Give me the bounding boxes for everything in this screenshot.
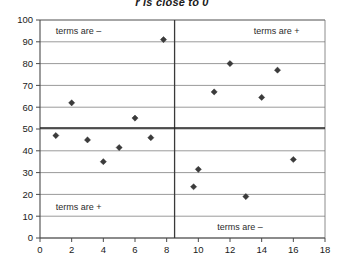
data-point [84,137,90,143]
x-tick-label: 8 [164,244,169,255]
y-tick-label: 80 [22,58,33,69]
data-point [100,159,106,165]
quadrant-label-bottom-left: terms are + [56,202,102,212]
y-tick-label: 100 [17,14,33,25]
data-point [148,135,154,141]
x-tick-label: 18 [320,244,331,255]
quadrant-label-top-left: terms are – [56,26,102,36]
y-tick-label: 10 [22,211,33,222]
scatter-chart: r is close to 0 0102030405060708090100 0… [0,0,344,266]
x-tick-label: 10 [193,244,204,255]
x-axis-tick-labels: 024681012141618 [37,244,330,255]
y-tick-label: 90 [22,36,33,47]
y-axis-tick-labels: 0102030405060708090100 [17,14,33,243]
y-tick-label: 20 [22,189,33,200]
x-tick-label: 4 [101,244,106,255]
quadrant-label-top-right: terms are + [254,26,300,36]
y-tick-label: 60 [22,102,33,113]
data-point [274,67,280,73]
y-tick-label: 0 [28,232,33,243]
data-point [116,144,122,150]
x-tick-label: 0 [37,244,42,255]
y-tick-label: 50 [22,123,33,134]
data-point [132,115,138,121]
y-tick-label: 30 [22,167,33,178]
data-point [227,61,233,67]
x-tick-label: 14 [256,244,267,255]
quadrant-label-bottom-right: terms are – [217,222,263,232]
x-tick-label: 2 [69,244,74,255]
data-point [211,89,217,95]
data-point [195,166,201,172]
data-point [290,156,296,162]
plot-area: 0102030405060708090100 024681012141618 t… [0,0,344,266]
x-tick-label: 16 [288,244,299,255]
y-tick-label: 70 [22,80,33,91]
data-point [69,100,75,106]
data-point [190,184,196,190]
x-tick-label: 12 [225,244,236,255]
data-point [53,132,59,138]
data-point [259,94,265,100]
y-tick-label: 40 [22,145,33,156]
x-tick-label: 6 [132,244,137,255]
